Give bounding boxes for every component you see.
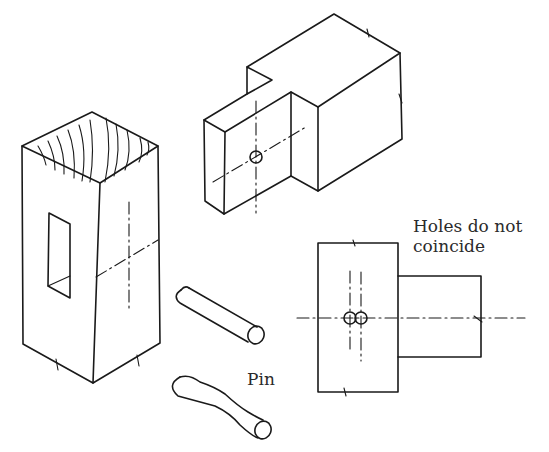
section-view [297,240,525,396]
pin-straight [176,287,266,346]
tenon-horizontal-centerline [213,127,306,182]
figure-caption-clipped [60,440,460,452]
post-left-face [22,146,100,383]
tenon-top-face [204,92,318,132]
pin-label: Pin [247,369,275,389]
pin-straight-tail [181,287,189,290]
holes-annotation: Holes do not coincide [413,216,543,256]
rail-top-face [247,14,400,107]
tenon-rail [204,14,402,214]
rail-tick-marks [367,29,402,103]
mortise-opening [48,213,70,298]
tenon-section [398,276,481,357]
tenon-side-face [204,120,225,214]
pin-straight-body [176,288,257,342]
post-horizontal-centerline [96,240,158,277]
rail-shoulder-line [291,176,318,191]
mortise-inner-edge [48,276,70,286]
post [22,112,160,383]
end-grain [38,118,149,182]
rail-end-face [318,53,402,191]
tenon-cheek [224,92,291,214]
pin-bent-lower-edge [172,377,258,438]
rail-shoulder-notch [247,67,272,94]
